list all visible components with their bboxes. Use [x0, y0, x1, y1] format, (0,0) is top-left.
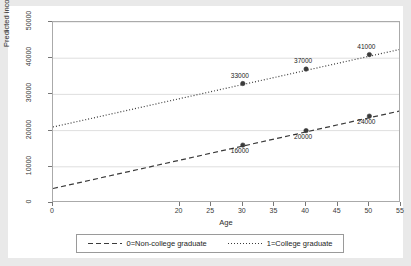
y-tick-label: 30000 [25, 76, 32, 110]
x-tick-mark [210, 202, 211, 206]
point-label: 33000 [231, 72, 249, 79]
legend-item-college[interactable]: 1=College graduate [228, 239, 333, 248]
y-tick-label: 20000 [25, 112, 32, 146]
x-tick-label: 0 [40, 207, 64, 214]
x-axis-title: Age [52, 218, 400, 227]
x-tick-mark [52, 202, 53, 206]
point-label: 41000 [357, 43, 375, 50]
data-series-layer [53, 22, 400, 202]
chart-card: Predicted income 01000020000300004000050… [8, 6, 403, 258]
y-tick-label: 0 [25, 185, 32, 219]
x-tick-mark [337, 202, 338, 206]
x-tick-mark [305, 202, 306, 206]
legend-item-non-college[interactable]: 0=Non-college graduate [88, 239, 207, 248]
plot-area [52, 21, 400, 202]
point-label: 20000 [294, 133, 312, 140]
plot-region [52, 21, 400, 202]
x-tick-label: 45 [325, 207, 349, 214]
x-tick-mark [368, 202, 369, 206]
x-tick-label: 30 [230, 207, 254, 214]
x-tick-label: 55 [388, 207, 411, 214]
point-label: 16000 [231, 147, 249, 154]
x-tick-mark [400, 202, 401, 206]
x-tick-label: 50 [356, 207, 380, 214]
legend-label-college: 1=College graduate [267, 239, 333, 248]
y-tick-label: 10000 [25, 148, 32, 182]
x-tick-label: 20 [167, 207, 191, 214]
x-tick-mark [273, 202, 274, 206]
figure-canvas: Predicted income 01000020000300004000050… [0, 0, 411, 266]
y-axis-title: Predicted income [2, 0, 11, 78]
point-label: 37000 [294, 57, 312, 64]
x-tick-mark [242, 202, 243, 206]
legend-swatch-dotted [228, 240, 262, 247]
point-label: 24000 [357, 118, 375, 125]
y-tick-label: 40000 [25, 40, 32, 74]
legend-label-non-college: 0=Non-college graduate [127, 239, 207, 248]
x-tick-label: 25 [198, 207, 222, 214]
legend-swatch-dashed [88, 240, 122, 247]
chart-legend: 0=Non-college graduate 1=College graduat… [76, 234, 344, 253]
y-tick-label: 50000 [25, 4, 32, 38]
x-tick-label: 35 [261, 207, 285, 214]
x-tick-mark [179, 202, 180, 206]
x-tick-label: 40 [293, 207, 317, 214]
